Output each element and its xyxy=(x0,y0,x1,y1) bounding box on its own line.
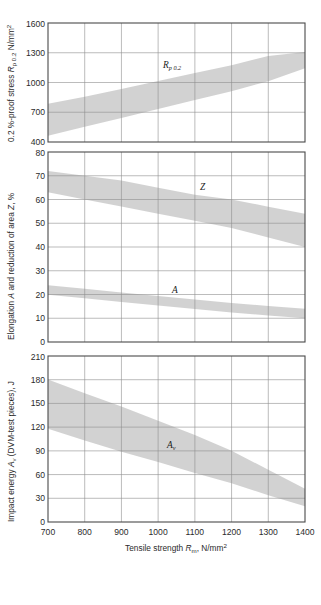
x-tick-7: 1400 xyxy=(295,527,314,537)
panel1-axis-title-sub: p 0.2 xyxy=(10,52,17,66)
panel-proof-stress: 400 700 1000 1300 1600 0.2 %-proof stres… xyxy=(5,19,305,148)
panel2-tick-2: 20 xyxy=(35,290,45,300)
panel3-tick-4: 120 xyxy=(31,422,46,432)
x-axis-title-unit: , N/mm xyxy=(197,543,224,553)
panel3-tick-1: 30 xyxy=(35,493,45,503)
panel1-tick-4: 1600 xyxy=(26,19,45,29)
panel2-tick-0: 0 xyxy=(40,337,45,347)
x-axis-title: Tensile strength Rm, N/mm2 xyxy=(125,542,227,554)
x-tick-4: 1100 xyxy=(186,527,205,537)
panel1-axis-title: 0.2 %-proof stress Rp 0.2 N/mm2 xyxy=(5,24,17,142)
series-label-reduction-of-area: Z xyxy=(200,182,206,192)
panel1-tick-1: 700 xyxy=(31,107,46,117)
series-label-impact-energy-sub: v xyxy=(173,444,176,451)
panel3-tick-2: 60 xyxy=(35,470,45,480)
panel3-tick-6: 180 xyxy=(31,375,46,385)
panel1-axis-title-prefix: 0.2 %-proof stress xyxy=(6,72,16,142)
x-tick-0: 700 xyxy=(41,527,56,537)
panel3-tick-7: 210 xyxy=(31,352,46,362)
panel2-tick-7: 70 xyxy=(35,171,45,181)
figure-container: 400 700 1000 1300 1600 0.2 %-proof stres… xyxy=(0,0,321,605)
x-tick-3: 1000 xyxy=(149,527,168,537)
multi-panel-chart: 400 700 1000 1300 1600 0.2 %-proof stres… xyxy=(0,0,321,605)
x-tick-1: 800 xyxy=(78,527,93,537)
panel3-tick-3: 90 xyxy=(35,446,45,456)
x-axis-title-main: Tensile strength xyxy=(125,543,185,553)
panel2-tick-labels: 0 10 20 30 40 50 60 70 80 xyxy=(35,148,45,348)
panel3-tick-0: 0 xyxy=(40,517,45,527)
panel2-tick-5: 50 xyxy=(35,218,45,228)
x-tick-2: 900 xyxy=(114,527,129,537)
panel2-tick-8: 80 xyxy=(35,148,45,158)
panel2-axis-title-unit: , % xyxy=(6,192,16,205)
panel2-tick-3: 30 xyxy=(35,266,45,276)
panel3-tick-5: 150 xyxy=(31,398,46,408)
x-axis-title-unit-sup: 2 xyxy=(223,542,227,549)
panel1-axis-title-sup: 2 xyxy=(5,24,12,28)
panel2-axis-title: Elongation A and reduction of area Z, % xyxy=(6,192,16,340)
panel3-axis-title-prefix: Impact energy xyxy=(6,467,16,522)
series-label-proof-stress-sub: p 0.2 xyxy=(168,64,181,71)
series-label-elongation: A xyxy=(171,285,178,295)
panel3-axis-title-mid: (DVM-test pieces), J xyxy=(6,381,16,458)
panel2-tick-4: 40 xyxy=(35,242,45,252)
panel2-axis-title-prefix: Elongation xyxy=(6,298,16,340)
panel1-axis-title-unit: N/mm xyxy=(6,28,16,53)
panel1-tick-2: 1000 xyxy=(26,78,45,88)
panel-impact-energy: 0 30 60 90 120 150 180 210 Impact energy… xyxy=(6,352,305,528)
x-tick-5: 1200 xyxy=(222,527,241,537)
panel2-tick-6: 60 xyxy=(35,195,45,205)
panel1-tick-3: 1300 xyxy=(26,48,45,58)
panel3-axis-title: Impact energy Av (DVM-test pieces), J xyxy=(6,381,17,522)
panel2-tick-1: 10 xyxy=(35,313,45,323)
x-tick-6: 1300 xyxy=(259,527,278,537)
panel1-tick-0: 400 xyxy=(31,137,46,147)
panel-elongation-reduction: 0 10 20 30 40 50 60 70 80 Elongation A a… xyxy=(6,148,305,348)
panel2-axis-title-mid: and reduction of area xyxy=(6,210,16,293)
